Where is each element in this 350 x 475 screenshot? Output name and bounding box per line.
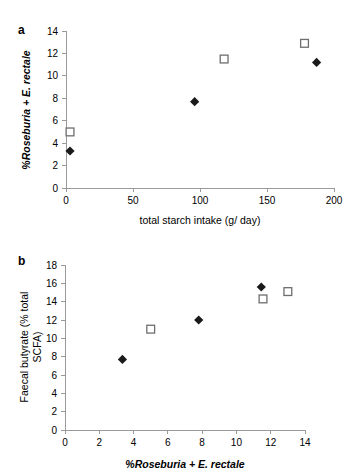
panel-a-point-filled-diamond (312, 58, 321, 67)
panel-b: b 02468101214024681012141618%Roseburia +… (0, 237, 350, 475)
panel-b-xtick-label: 6 (165, 437, 171, 448)
panel-b-xtick-label: 4 (131, 437, 137, 448)
panel-b-ytick-label: 18 (46, 260, 58, 271)
panel-b-ytick-label: 10 (46, 333, 58, 344)
panel-a-xtick-label: 50 (127, 195, 139, 206)
panel-a-ytick-label: 6 (52, 115, 58, 126)
panel-a-ytick-label: 4 (52, 138, 58, 149)
panel-a-xtick-label: 200 (326, 195, 343, 206)
panel-a-ytick-label: 2 (52, 160, 58, 171)
panel-b-point-open-square (284, 288, 292, 296)
panel-b-point-filled-diamond (257, 282, 266, 291)
panel-a-point-filled-diamond (65, 146, 74, 155)
panel-a-xtick-label: 0 (63, 195, 69, 206)
panel-a-xaxis-title: total starch intake (g/ day) (140, 214, 261, 226)
panel-b-ytick-label: 2 (51, 406, 57, 417)
panel-a-axis-lines (66, 31, 334, 188)
panel-b-ytick-label: 4 (51, 388, 57, 399)
panel-b-xtick-label: 8 (199, 437, 205, 448)
panel-b-yaxis-title: Faecal butyrate (% totalSCFA) (18, 292, 43, 403)
panel-a-point-open-square (220, 55, 228, 63)
panel-b-point-filled-diamond (194, 315, 203, 324)
panel-a-ytick-label: 10 (47, 70, 59, 81)
panel-b-xtick-label: 2 (97, 437, 103, 448)
panel-b-ytick-label: 0 (51, 425, 57, 436)
panel-a-ytick-label: 14 (47, 26, 59, 37)
panel-b-ytick-label: 12 (46, 315, 58, 326)
panel-a-point-open-square (66, 128, 74, 136)
panel-b-ytick-label: 14 (46, 296, 58, 307)
panel-a-ytick-label: 8 (52, 93, 58, 104)
panel-a-plot: 05010015020002468101214total starch inta… (0, 0, 350, 238)
panel-b-point-filled-diamond (118, 355, 127, 364)
panel-a-point-filled-diamond (190, 97, 199, 106)
panel-a-point-open-square (301, 39, 309, 47)
panel-b-xaxis-title: %Roseburia + E. rectale (125, 458, 245, 470)
panel-b-ytick-label: 16 (46, 278, 58, 289)
panel-b-point-open-square (147, 325, 155, 333)
panel-a-xtick-label: 100 (192, 195, 209, 206)
panel-b-plot: 02468101214024681012141618%Roseburia + E… (0, 237, 350, 475)
panel-a-ytick-label: 12 (47, 48, 59, 59)
scientific-figure: a 05010015020002468101214total starch in… (0, 0, 350, 475)
panel-a: a 05010015020002468101214total starch in… (0, 0, 350, 237)
panel-a-xtick-label: 150 (259, 195, 276, 206)
panel-a-yaxis-title: %Roseburia + E. rectale (20, 50, 32, 170)
panel-b-ytick-label: 6 (51, 370, 57, 381)
panel-b-axis-lines (65, 265, 305, 430)
panel-b-xtick-label: 12 (265, 437, 277, 448)
panel-a-ytick-label: 0 (52, 183, 58, 194)
panel-b-xtick-label: 0 (62, 437, 68, 448)
panel-b-xtick-label: 14 (299, 437, 311, 448)
panel-b-point-open-square (259, 295, 267, 303)
panel-b-ytick-label: 8 (51, 351, 57, 362)
panel-b-xtick-label: 10 (231, 437, 243, 448)
